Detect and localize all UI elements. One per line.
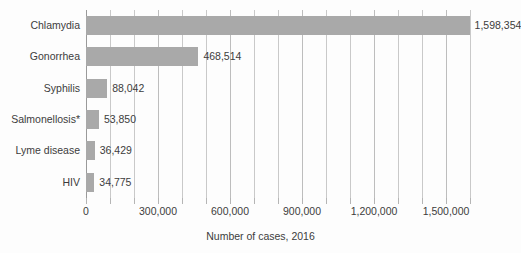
bar-row: 468,514 [86,41,470,72]
x-axis-tick [350,198,351,204]
x-axis-tick [158,198,159,204]
category-label: HIV [0,173,80,192]
bar [86,110,99,129]
bar-row: 88,042 [86,73,470,104]
x-axis-tick [86,198,87,204]
x-tick-label: 300,000 [139,205,177,217]
x-axis-title: Number of cases, 2016 [0,230,521,242]
x-axis-tick [422,198,423,204]
bar-chart: ChlamydiaGonorrheaSyphilisSalmonellosis*… [0,0,521,253]
x-axis-tick [110,198,111,204]
x-tick-label: 0 [83,205,89,217]
bar [86,173,94,192]
x-axis-tick [398,198,399,204]
x-axis-tick [134,198,135,204]
bar [86,141,95,160]
x-axis-tick [254,198,255,204]
x-tick-label: 900,000 [283,205,321,217]
bar-row: 1,598,354 [86,10,470,41]
x-tick-label: 1,200,000 [351,205,398,217]
bar [86,47,198,66]
x-axis-tick [302,198,303,204]
bar-row: 53,850 [86,104,470,135]
bar-value-label: 36,429 [95,141,132,160]
x-axis-tick [374,198,375,204]
x-axis-tick [446,198,447,204]
x-axis-tick [278,198,279,204]
bar-value-label: 34,775 [94,173,131,192]
x-tick-label: 1,500,000 [423,205,470,217]
bar-value-label: 53,850 [99,110,136,129]
bar-value-label: 1,598,354 [470,16,521,35]
bar-value-label: 88,042 [107,79,144,98]
x-axis-tick [326,198,327,204]
category-label: Salmonellosis* [0,110,80,129]
bar [86,16,470,35]
bar-row: 34,775 [86,167,470,198]
category-label: Chlamydia [0,16,80,35]
category-label: Syphilis [0,79,80,98]
x-axis-tick [230,198,231,204]
x-axis-tick [182,198,183,204]
category-label: Lyme disease [0,141,80,160]
category-label: Gonorrhea [0,47,80,66]
x-axis-tick [206,198,207,204]
x-axis-tick [470,198,471,204]
bar [86,79,107,98]
gridline [470,10,471,198]
x-tick-label: 600,000 [211,205,249,217]
bar-value-label: 468,514 [198,47,241,66]
bar-row: 36,429 [86,135,470,166]
